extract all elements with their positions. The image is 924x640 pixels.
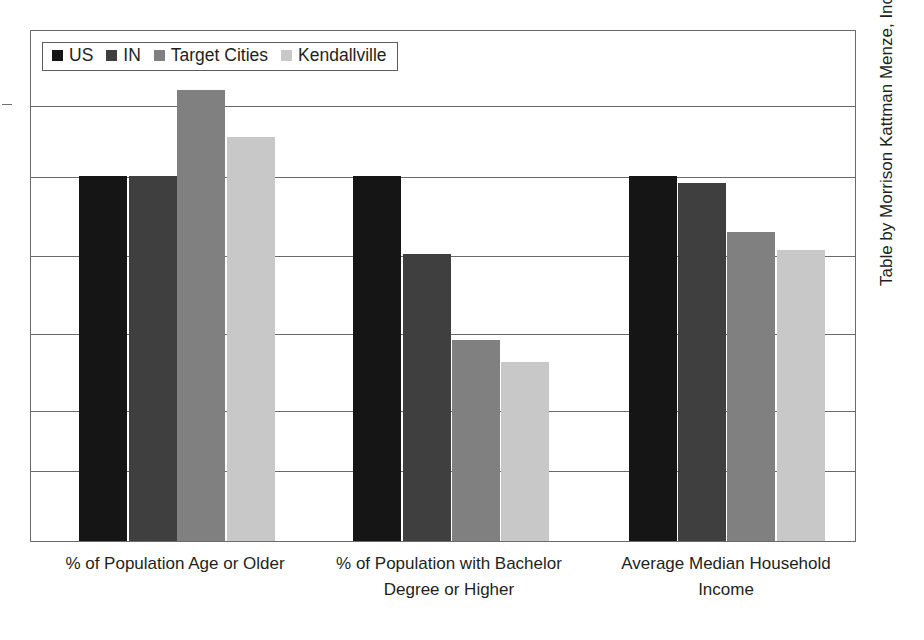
bar-target-cities-group-1 xyxy=(177,90,225,541)
bar-in-group-2 xyxy=(403,254,451,541)
left-edge-tick-mark xyxy=(2,104,12,105)
category-label-line: % of Population Age or Older xyxy=(25,551,325,577)
legend-label: Kendallville xyxy=(298,47,387,65)
bar-target-cities-group-2 xyxy=(452,340,500,541)
category-axis-labels: % of Population Age or Older% of Populat… xyxy=(30,551,856,621)
bar-kendallville-group-3 xyxy=(777,250,825,541)
bar-kendallville-group-2 xyxy=(501,362,549,541)
category-label-line: Average Median Household xyxy=(576,551,876,577)
bar-target-cities-group-3 xyxy=(727,232,775,541)
bar-kendallville-group-1 xyxy=(227,137,275,541)
legend-swatch-icon xyxy=(154,50,165,61)
bar-in-group-3 xyxy=(678,183,726,541)
legend-item-target-cities: Target Cities xyxy=(154,47,268,65)
category-label-line: Income xyxy=(576,577,876,603)
bars-layer xyxy=(31,31,855,541)
bar-chart-figure: USINTarget CitiesKendallville % of Popul… xyxy=(0,0,924,640)
category-label-line: Degree or Higher xyxy=(299,577,599,603)
plot-area: USINTarget CitiesKendallville xyxy=(30,30,856,542)
bar-us-group-2 xyxy=(353,176,401,541)
bar-us-group-3 xyxy=(629,176,677,541)
source-credit-text: Table by Morrison Kattman Menze, Inc. (2… xyxy=(878,0,895,286)
legend-swatch-icon xyxy=(106,50,117,61)
legend-label: Target Cities xyxy=(171,47,268,65)
bar-us-group-1 xyxy=(79,176,127,541)
legend-swatch-icon xyxy=(281,50,292,61)
legend-item-in: IN xyxy=(106,47,141,65)
legend-label: US xyxy=(69,47,93,65)
legend-item-us: US xyxy=(52,47,93,65)
category-label-line: % of Population with Bachelor xyxy=(299,551,599,577)
legend-label: IN xyxy=(123,47,141,65)
bar-in-group-1 xyxy=(129,176,177,541)
legend-item-kendallville: Kendallville xyxy=(281,47,387,65)
category-label-1: % of Population Age or Older xyxy=(25,551,325,577)
category-label-3: Average Median HouseholdIncome xyxy=(576,551,876,603)
legend-swatch-icon xyxy=(52,50,63,61)
category-label-2: % of Population with BachelorDegree or H… xyxy=(299,551,599,603)
chart-legend: USINTarget CitiesKendallville xyxy=(42,42,398,71)
